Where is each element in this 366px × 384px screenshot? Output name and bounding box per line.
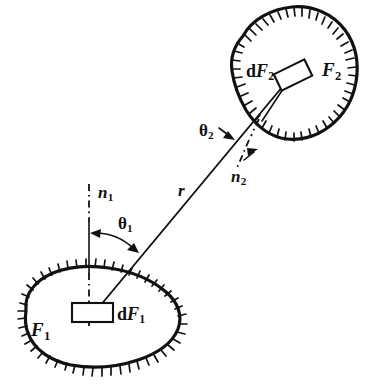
angle-1-label: θ1 [118, 215, 133, 234]
element-1-box [72, 303, 113, 322]
element-2-label: dF2 [246, 62, 274, 83]
element-1-group [72, 303, 113, 322]
ray-r-group [95, 80, 288, 312]
angle-2-arrowhead-normal [247, 148, 258, 156]
ray-r-line [95, 80, 288, 312]
normal-2-dashdot-lower [237, 140, 249, 168]
angle-1-arc [95, 233, 134, 249]
figure-root: dF2 F2 θ2 n2 r n1 θ1 dF1 F1 [0, 0, 366, 384]
element-1-label: dF1 [117, 305, 145, 326]
surface-2-label: F2 [322, 60, 341, 82]
normal-2-label: n2 [231, 168, 246, 187]
normal-1-label: n1 [98, 184, 113, 203]
distance-label: r [178, 182, 185, 199]
angle-1-arrowhead-normal [90, 229, 101, 238]
normal-2-group [237, 119, 259, 168]
angle-2-label: θ2 [199, 122, 214, 141]
surface-1-label: F1 [31, 320, 50, 342]
